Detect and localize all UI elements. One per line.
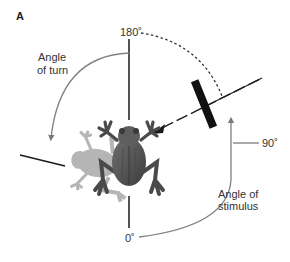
panel-label: A [16, 10, 24, 22]
frog-orientation-diagram: A 180˚ Angle of turn [0, 0, 290, 262]
turn-label-line1: Angle [38, 51, 66, 63]
turn-label-line2: of turn [37, 64, 68, 76]
turned-heading-line [20, 155, 65, 166]
dashed-arc [141, 33, 222, 96]
stimulus-bar [191, 79, 217, 128]
stimulus-path-line-solid [200, 78, 262, 109]
stimulus-label-line2: stimulus [218, 200, 259, 212]
stimulus-arc-arrow [139, 120, 231, 237]
angle-0-label: 0˚ [125, 232, 135, 244]
angle-90-label: 90˚ [262, 137, 278, 149]
stimulus-label-line1: Angle of [218, 188, 259, 200]
angle-180-label: 180˚ [120, 26, 142, 38]
